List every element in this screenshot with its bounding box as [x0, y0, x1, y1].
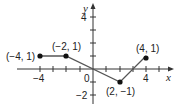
x-axis-label: x	[165, 71, 171, 83]
point-2-neg1	[117, 79, 122, 84]
tick-label-x4: 4	[143, 73, 149, 84]
tick-label-yneg2: −2	[76, 90, 88, 101]
point-label-4-1: (4, 1)	[136, 43, 159, 54]
point-4-1	[143, 55, 148, 60]
point-neg2-1	[63, 53, 68, 58]
graph: y x 4 −2 −4 0 4 (−4, 1) (−2, 1) (2, −1) …	[0, 0, 175, 107]
point-neg4-1	[37, 53, 42, 58]
tick-label-y4: 4	[81, 12, 87, 23]
y-axis-arrow-icon	[91, 3, 96, 9]
point-label-neg4-1: (−4, 1)	[6, 51, 35, 62]
point-label-2-neg1: (2, −1)	[106, 86, 135, 97]
tick-label-xneg4: −4	[33, 73, 45, 84]
tick-label-x0: 0	[84, 73, 90, 84]
point-label-neg2-1: (−2, 1)	[52, 41, 81, 52]
